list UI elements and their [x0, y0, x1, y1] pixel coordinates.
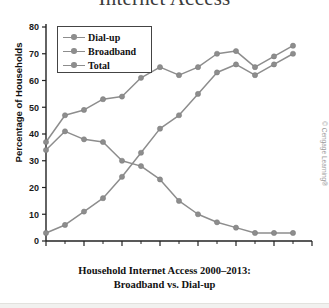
data-point [100, 139, 105, 144]
bottom-divider [0, 303, 329, 308]
data-point [119, 158, 124, 163]
y-axis-label: Percentage of Households [13, 33, 24, 173]
x-tick-label: 2000 [36, 248, 56, 250]
data-point [252, 230, 257, 235]
data-point [290, 51, 295, 56]
data-point [100, 97, 105, 102]
x-tick-label: 2012 [264, 248, 284, 250]
data-point [43, 147, 48, 152]
y-tick-label: 70 [29, 49, 39, 59]
data-point [81, 209, 86, 214]
chart-figure: Internet Access 010203040506070802000200… [0, 0, 329, 308]
y-tick-label: 50 [29, 103, 39, 113]
data-point [233, 62, 238, 67]
data-point [176, 73, 181, 78]
data-point [176, 113, 181, 118]
y-tick-label: 60 [29, 76, 39, 86]
x-tick-label: 2010 [226, 248, 246, 250]
x-tick-label: 2004 [112, 248, 132, 250]
data-point [233, 48, 238, 53]
data-point [100, 196, 105, 201]
data-point [290, 230, 295, 235]
legend-item-total: Total [63, 58, 151, 72]
data-point [62, 222, 67, 227]
data-point [290, 43, 295, 48]
data-point [157, 126, 162, 131]
x-tick-label: 2006 [150, 248, 170, 250]
x-tick-label: 2014 [302, 248, 322, 250]
data-point [62, 129, 67, 134]
data-point [43, 139, 48, 144]
chart-legend: Dial-up Broadband Total [57, 26, 152, 73]
data-point [271, 54, 276, 59]
y-tick-label: 0 [34, 236, 39, 246]
x-tick-label: 2002 [74, 248, 94, 250]
data-point [119, 174, 124, 179]
y-tick-label: 30 [29, 156, 39, 166]
data-point [138, 75, 143, 80]
legend-marker-icon [63, 46, 85, 56]
data-point [157, 177, 162, 182]
legend-marker-icon [63, 32, 85, 42]
data-point [271, 62, 276, 67]
copyright-watermark: © Cengage Learning® [321, 121, 328, 186]
y-tick-label: 80 [29, 22, 39, 32]
data-point [214, 220, 219, 225]
caption-line-1: Household Internet Access 2000–2013: [0, 264, 329, 278]
plot-area: 0102030405060708020002002200420062008201… [0, 18, 329, 250]
data-point [252, 73, 257, 78]
data-point [233, 225, 238, 230]
data-point [62, 113, 67, 118]
data-point [214, 51, 219, 56]
data-point [271, 230, 276, 235]
legend-marker-icon [63, 60, 85, 70]
series-broadband [43, 51, 295, 235]
data-point [138, 164, 143, 169]
y-tick-label: 40 [29, 129, 39, 139]
data-point [119, 94, 124, 99]
data-point [43, 230, 48, 235]
x-tick-label: 2008 [188, 248, 208, 250]
legend-label-broadband: Broadband [88, 46, 136, 57]
data-point [176, 198, 181, 203]
data-point [81, 107, 86, 112]
chart-title: Internet Access [0, 0, 329, 11]
y-tick-label: 10 [29, 210, 39, 220]
data-point [195, 91, 200, 96]
legend-item-dial-up: Dial-up [63, 30, 151, 44]
figure-caption: Household Internet Access 2000–2013: Bro… [0, 264, 329, 292]
legend-item-broadband: Broadband [63, 44, 151, 58]
data-point [195, 65, 200, 70]
data-point [157, 65, 162, 70]
line-chart-svg: 0102030405060708020002002200420062008201… [0, 18, 329, 250]
data-point [252, 65, 257, 70]
y-tick-label: 20 [29, 183, 39, 193]
legend-label-dial-up: Dial-up [88, 32, 120, 43]
data-point [195, 212, 200, 217]
data-point [138, 150, 143, 155]
legend-label-total: Total [88, 60, 110, 71]
series-dial-up [43, 129, 295, 236]
caption-line-2: Broadband vs. Dial-up [0, 278, 329, 292]
data-point [214, 70, 219, 75]
data-point [81, 137, 86, 142]
